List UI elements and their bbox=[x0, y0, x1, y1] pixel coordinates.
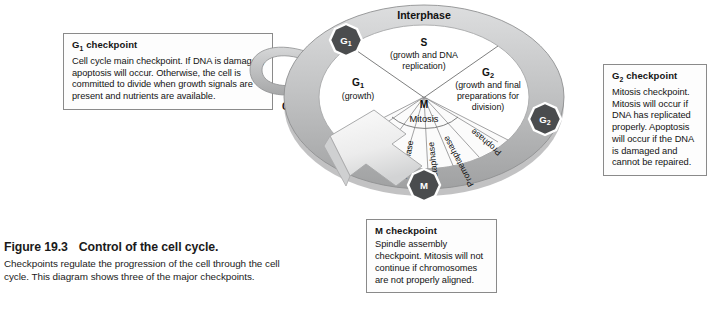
phase-detail-g2-line1: (growth and final bbox=[455, 80, 521, 90]
cell-cycle-diagram: G0 S (growth and DNA replication) G bbox=[246, 0, 602, 222]
callout-g1-title: G1 checkpoint bbox=[72, 39, 265, 54]
figure-caption-heading: Figure 19.3Control of the cell cycle. bbox=[4, 240, 304, 254]
checkpoint-badge-m[interactable]: M bbox=[408, 169, 440, 201]
callout-g2-body: Mitosis checkpoint. Mitosis will occur i… bbox=[612, 87, 699, 169]
callout-g2-checkpoint: G2 checkpoint Mitosis checkpoint. Mitosi… bbox=[603, 64, 707, 176]
phase-label-m: M bbox=[420, 99, 429, 110]
mitosis-label: Mitosis bbox=[410, 114, 439, 124]
figure-caption: Figure 19.3Control of the cell cycle. Ch… bbox=[4, 240, 304, 283]
callout-m-title: M checkpoint bbox=[375, 225, 489, 237]
callout-m-checkpoint: M checkpoint Spindle assembly checkpoint… bbox=[366, 219, 497, 293]
callout-g1-body: Cell cycle main checkpoint. If DNA is da… bbox=[72, 56, 265, 103]
phase-detail-g2-line2: preparations for bbox=[457, 91, 519, 101]
phase-detail-g2-line3: division) bbox=[472, 102, 505, 112]
callout-g1-checkpoint: G1 checkpoint Cell cycle main checkpoint… bbox=[63, 33, 273, 110]
phase-label-s: S bbox=[421, 37, 428, 48]
checkpoint-badge-g1[interactable]: G1 bbox=[330, 24, 362, 56]
phase-detail-g1: (growth) bbox=[342, 91, 375, 101]
checkpoint-badge-m-label: M bbox=[420, 180, 428, 191]
figure-number: Figure 19.3 bbox=[4, 240, 68, 254]
phase-detail-s-line1: (growth and DNA bbox=[390, 50, 458, 60]
phase-detail-s-line2: replication) bbox=[402, 61, 445, 71]
checkpoint-badge-g2[interactable]: G2 bbox=[529, 103, 561, 135]
callout-m-body: Spindle assembly checkpoint. Mitosis wil… bbox=[375, 239, 489, 286]
figure-title: Control of the cell cycle. bbox=[79, 240, 219, 254]
figure-caption-body: Checkpoints regulate the progression of … bbox=[4, 257, 304, 283]
interphase-label: Interphase bbox=[397, 9, 451, 21]
callout-g2-title: G2 checkpoint bbox=[612, 70, 699, 85]
